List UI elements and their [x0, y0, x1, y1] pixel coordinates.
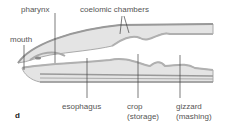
label-crop-note: (storage) [127, 112, 159, 121]
label-mouth: mouth [10, 35, 32, 44]
label-gizzard: gizzard [176, 102, 202, 111]
panel-label: d [15, 111, 20, 120]
earthworm-diagram: pharynx coelomic chambers mouth esophagu… [0, 0, 230, 131]
label-coelomic-chambers: coelomic chambers [80, 5, 149, 14]
label-gizzard-note: (mashing) [176, 112, 212, 121]
label-pharynx: pharynx [21, 5, 49, 14]
label-crop: crop [127, 102, 143, 111]
label-esophagus: esophagus [62, 102, 101, 111]
